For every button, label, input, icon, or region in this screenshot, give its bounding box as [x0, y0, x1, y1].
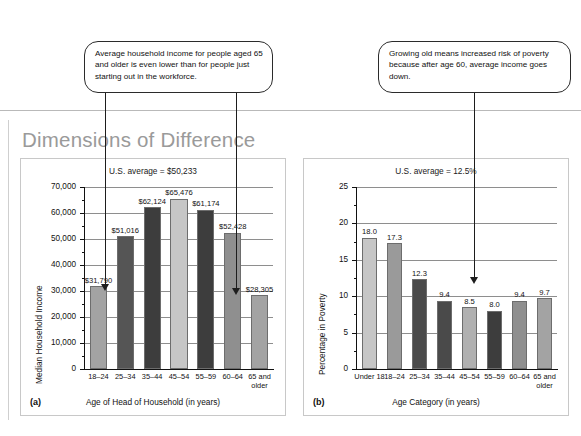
bar	[224, 233, 241, 369]
y-axis-tick-label: 10	[339, 291, 348, 300]
bar	[197, 210, 214, 369]
page-left-rail	[8, 120, 9, 420]
gridline	[357, 187, 557, 188]
y-axis-tick-label: 60,000	[51, 208, 76, 217]
y-axis-tick-label: 15	[339, 255, 348, 264]
bar	[462, 307, 477, 369]
chart-b-average-note: U.S. average = 12.5%	[304, 166, 568, 176]
bar	[117, 236, 134, 369]
bar	[362, 238, 377, 369]
chart-a-panel-letter: (a)	[30, 397, 41, 407]
callout-a-arrowhead-left	[101, 284, 109, 291]
chart-a-x-axis-title: Age of Head of Household (in years)	[21, 397, 285, 407]
bar	[537, 298, 552, 369]
y-axis-tick-label: 0	[343, 364, 348, 373]
bar	[251, 295, 268, 369]
x-axis-tick-label: 65 and older	[528, 373, 562, 390]
y-axis-tick-label: 20,000	[51, 312, 76, 321]
chart-a-y-axis-title: Median Household Income	[34, 285, 44, 384]
x-axis-tick-label: 65 and older	[241, 373, 278, 390]
bar-value-label: $31,790	[79, 276, 118, 285]
bar-value-label: 9.7	[527, 288, 563, 297]
page-title: Dimensions of Difference	[22, 128, 255, 152]
bar	[170, 199, 187, 369]
bar-value-label: $51,016	[106, 226, 145, 235]
y-axis-tick-label: 70,000	[51, 182, 76, 191]
x-axis-line	[84, 369, 274, 370]
bar	[90, 286, 107, 369]
bar-value-label: $52,428	[213, 222, 252, 231]
bar-value-label: 12.3	[402, 269, 438, 278]
gridline	[357, 223, 557, 224]
callout-a-arrowhead-right	[232, 288, 240, 295]
y-axis-tick-label: 50,000	[51, 234, 76, 243]
callout-box-poverty: Growing old means increased risk of pove…	[378, 41, 571, 93]
bar-value-label: $61,174	[187, 199, 226, 208]
bar	[144, 207, 161, 369]
bar-value-label: $65,476	[160, 188, 199, 197]
callout-box-income: Average household income for people aged…	[84, 41, 273, 93]
callout-b-leader	[474, 93, 475, 279]
bar-value-label: 8.0	[477, 300, 513, 309]
chart-b-plot-area: 051015202518.0Under 1817.318–2412.325–34…	[357, 187, 557, 369]
callout-b-arrowhead	[470, 277, 478, 284]
chart-b-x-axis-title: Age Category (in years)	[304, 397, 568, 407]
chart-a-plot-area: 010,00020,00030,00040,00050,00060,00070,…	[85, 187, 273, 369]
y-axis-tick-label: 40,000	[51, 260, 76, 269]
header-divider	[0, 110, 581, 111]
x-axis-line	[356, 369, 558, 370]
bar	[512, 301, 527, 369]
chart-b-y-axis-title: Percentage in Poverty	[317, 293, 327, 375]
chart-b-panel-letter: (b)	[313, 397, 325, 407]
figure-root: Average household income for people aged…	[0, 0, 581, 436]
bar	[487, 311, 502, 369]
chart-a-average-note: U.S. average = $50,233	[21, 166, 285, 176]
y-axis-line	[356, 187, 357, 370]
bar	[387, 243, 402, 369]
y-axis-tick-label: 0	[71, 364, 76, 373]
y-axis-tick-label: 25	[339, 182, 348, 191]
y-axis-tick-label: 30,000	[51, 286, 76, 295]
chart-panel-a: U.S. average = $50,233 Median Household …	[20, 158, 286, 416]
bar-value-label: 17.3	[377, 233, 413, 242]
y-axis-tick-label: 10,000	[51, 338, 76, 347]
callout-a-leader-left	[105, 93, 106, 286]
bar	[412, 279, 427, 369]
bar	[437, 301, 452, 369]
chart-panel-b: U.S. average = 12.5% Percentage in Pover…	[303, 158, 569, 416]
y-axis-tick-label: 20	[339, 218, 348, 227]
bar-value-label: $62,124	[133, 197, 172, 206]
callout-a-leader-right	[236, 93, 237, 290]
bar-value-label: $28,305	[240, 285, 279, 294]
y-axis-tick-label: 5	[343, 328, 348, 337]
